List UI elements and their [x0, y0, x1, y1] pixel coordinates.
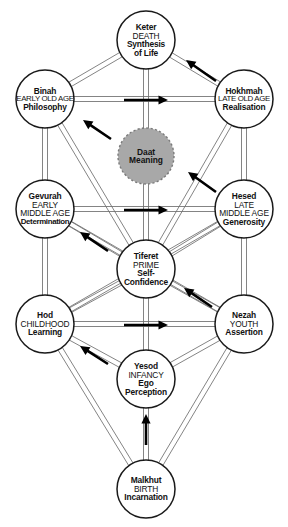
node-circle-malkhut [117, 460, 175, 518]
node-circle-tiferet [117, 240, 175, 298]
node-circle-daat [118, 128, 174, 184]
tree-of-life-diagram: KeterDEATHSynthesisof LifeBinahEARLY OLD… [0, 0, 288, 527]
node-circle-nezah [215, 295, 273, 353]
arrow-daat-to-binah [83, 120, 112, 140]
arrow-yesod-to-hod [80, 346, 109, 365]
node-circle-group [16, 11, 273, 518]
node-circle-keter [117, 11, 175, 69]
node-circle-gevurah [16, 180, 74, 238]
node-circle-hokhmah [215, 70, 273, 128]
arrow-hesed-to-daat [188, 172, 217, 193]
arrow-nezah-to-tiferet [184, 288, 213, 308]
node-circle-yesod [117, 350, 175, 408]
diagram-canvas [0, 0, 288, 527]
node-circle-hod [16, 295, 74, 353]
arrow-malkhut-to-yesod [141, 414, 150, 445]
arrow-hokhmah-to-keter [186, 60, 217, 82]
node-circle-hesed [215, 180, 273, 238]
node-circle-binah [16, 70, 74, 128]
